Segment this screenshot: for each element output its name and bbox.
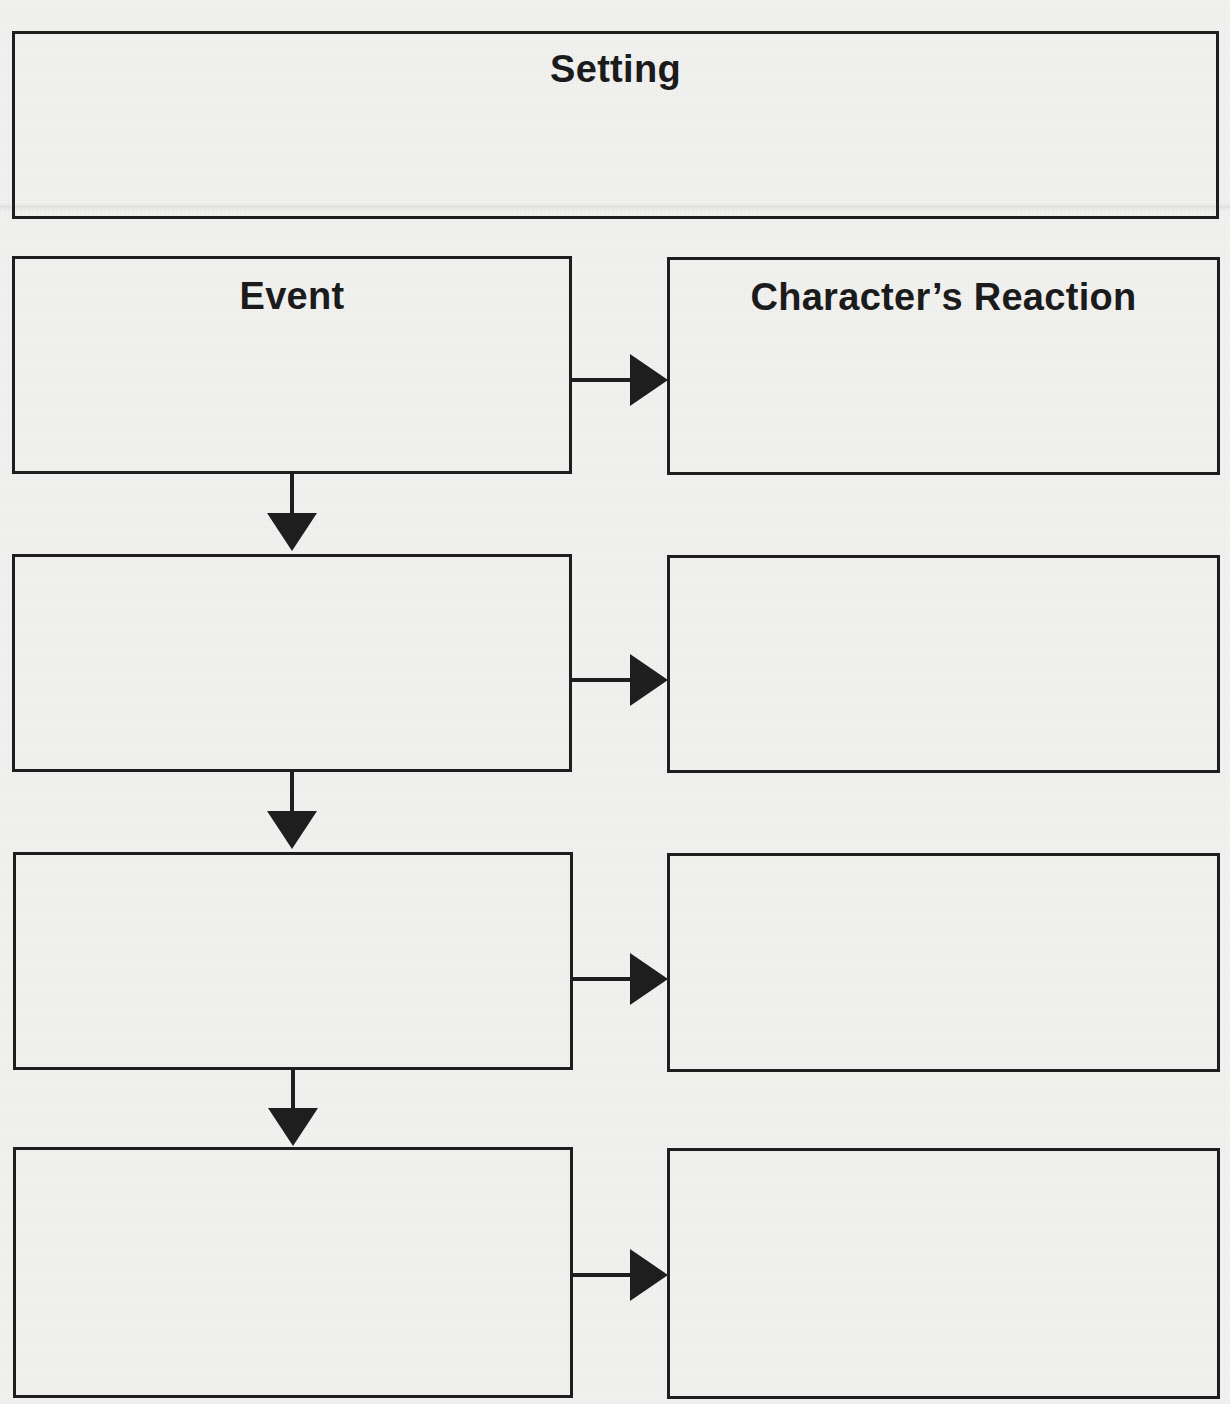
connector-line-down-1 xyxy=(290,473,294,515)
arrow-down-icon xyxy=(267,811,317,849)
reaction-answer-area-2[interactable] xyxy=(684,572,1203,756)
setting-box[interactable]: Setting xyxy=(12,31,1219,219)
reaction-answer-area-3[interactable] xyxy=(684,870,1203,1055)
connector-line-down-3 xyxy=(291,1068,295,1110)
event-box-2[interactable] xyxy=(12,554,572,772)
arrow-right-icon xyxy=(630,1249,668,1301)
reaction-answer-area-1[interactable] xyxy=(684,330,1203,458)
event-answer-area-2[interactable] xyxy=(29,571,555,755)
connector-line-right-2 xyxy=(571,678,633,682)
arrow-right-icon xyxy=(630,953,668,1005)
event-box-1[interactable]: Event xyxy=(12,256,572,474)
setting-answer-area[interactable] xyxy=(29,104,1202,202)
arrow-right-icon xyxy=(630,654,668,706)
event-column-header: Event xyxy=(15,275,569,318)
event-answer-area-4[interactable] xyxy=(30,1164,556,1381)
event-answer-area-1[interactable] xyxy=(29,329,555,457)
reaction-box-4[interactable] xyxy=(667,1148,1220,1399)
arrow-right-icon xyxy=(630,354,668,406)
reaction-box-2[interactable] xyxy=(667,555,1220,773)
connector-line-right-4 xyxy=(572,1273,634,1277)
reaction-box-1[interactable]: Character’s Reaction xyxy=(667,257,1220,475)
connector-line-down-2 xyxy=(290,771,294,813)
event-answer-area-3[interactable] xyxy=(30,869,556,1053)
setting-title: Setting xyxy=(15,48,1216,91)
reaction-box-3[interactable] xyxy=(667,853,1220,1072)
arrow-down-icon xyxy=(267,513,317,551)
reaction-column-header: Character’s Reaction xyxy=(670,276,1217,319)
connector-line-right-3 xyxy=(572,977,634,981)
arrow-down-icon xyxy=(268,1108,318,1146)
connector-line-right-1 xyxy=(571,378,633,382)
reaction-answer-area-4[interactable] xyxy=(684,1165,1203,1382)
event-box-3[interactable] xyxy=(13,852,573,1070)
event-box-4[interactable] xyxy=(13,1147,573,1398)
